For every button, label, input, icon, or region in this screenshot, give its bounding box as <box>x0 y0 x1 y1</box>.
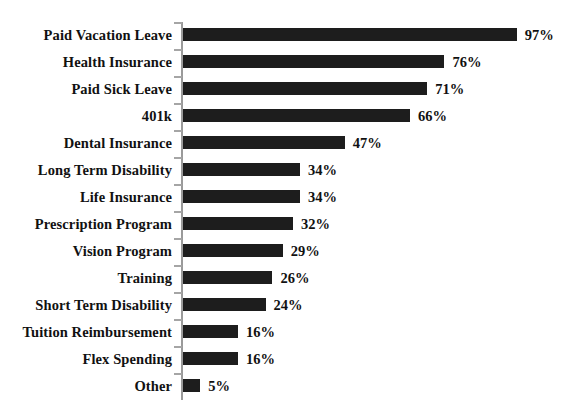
axis-tick-mark <box>174 76 182 78</box>
bar-row: 401k66% <box>0 103 572 130</box>
bar <box>183 190 300 203</box>
bar-row: Paid Sick Leave71% <box>0 76 572 103</box>
bar-category-label: Training <box>0 265 172 292</box>
bar <box>183 352 238 365</box>
bar-category-label: Health Insurance <box>0 49 172 76</box>
bar-category-label: Tuition Reimbursement <box>0 319 172 346</box>
axis-tick-mark <box>174 238 182 240</box>
axis-tick-mark <box>174 211 182 213</box>
bar-category-label: Vision Program <box>0 238 172 265</box>
bar-value-label: 97% <box>525 22 554 49</box>
bar-track: 16% <box>183 346 572 373</box>
bar <box>183 325 238 338</box>
bar-category-label: Prescription Program <box>0 211 172 238</box>
bar-value-label: 32% <box>301 211 330 238</box>
bar <box>183 28 517 41</box>
axis-tick-mark <box>174 157 182 159</box>
bar <box>183 244 283 257</box>
bar-category-label: Long Term Disability <box>0 157 172 184</box>
axis-tick-mark <box>174 292 182 294</box>
bar <box>183 217 293 230</box>
axis-tick-mark <box>174 265 182 267</box>
bar-track: 16% <box>183 319 572 346</box>
bar-value-label: 66% <box>418 103 447 130</box>
bar-row: Tuition Reimbursement16% <box>0 319 572 346</box>
bar-row: Prescription Program32% <box>0 211 572 238</box>
bar-value-label: 76% <box>452 49 481 76</box>
bar <box>183 298 266 311</box>
bar-value-label: 16% <box>246 319 275 346</box>
bar-value-label: 34% <box>308 157 337 184</box>
bar-row: Paid Vacation Leave97% <box>0 22 572 49</box>
bar-chart: Paid Vacation Leave97%Health Insurance76… <box>0 0 572 416</box>
bar-row: Dental Insurance47% <box>0 130 572 157</box>
bar-value-label: 5% <box>208 373 230 400</box>
bar-row: Training26% <box>0 265 572 292</box>
bar-track: 24% <box>183 292 572 319</box>
bar-track: 47% <box>183 130 572 157</box>
bar-track: 29% <box>183 238 572 265</box>
bar-value-label: 24% <box>274 292 303 319</box>
axis-tick-mark <box>174 373 182 375</box>
bar-row: Health Insurance76% <box>0 49 572 76</box>
axis-tick-mark <box>174 49 182 51</box>
bar-row-list: Paid Vacation Leave97%Health Insurance76… <box>0 22 572 400</box>
bar-category-label: Short Term Disability <box>0 292 172 319</box>
bar-track: 26% <box>183 265 572 292</box>
bar-row: Other5% <box>0 373 572 400</box>
bar-track: 71% <box>183 76 572 103</box>
bar-row: Vision Program29% <box>0 238 572 265</box>
bar-track: 34% <box>183 157 572 184</box>
bar-row: Life Insurance34% <box>0 184 572 211</box>
bar-value-label: 29% <box>291 238 320 265</box>
bar-track: 34% <box>183 184 572 211</box>
bar <box>183 271 272 284</box>
bar-track: 5% <box>183 373 572 400</box>
bar-category-label: Flex Spending <box>0 346 172 373</box>
axis-tick-mark <box>174 22 182 24</box>
axis-tick-mark <box>174 346 182 348</box>
bar-track: 66% <box>183 103 572 130</box>
bar-value-label: 71% <box>435 76 464 103</box>
axis-tick-mark <box>174 319 182 321</box>
bar-value-label: 47% <box>353 130 382 157</box>
bar-category-label: Other <box>0 373 172 400</box>
bar <box>183 55 444 68</box>
bar <box>183 136 345 149</box>
bar-value-label: 16% <box>246 346 275 373</box>
axis-tick-mark <box>174 130 182 132</box>
bar-track: 97% <box>183 22 572 49</box>
bar-row: Long Term Disability34% <box>0 157 572 184</box>
bar <box>183 109 410 122</box>
plot-area: Paid Vacation Leave97%Health Insurance76… <box>0 14 572 406</box>
bar-category-label: Dental Insurance <box>0 130 172 157</box>
bar <box>183 379 200 392</box>
bar-category-label: Paid Vacation Leave <box>0 22 172 49</box>
bar-category-label: Life Insurance <box>0 184 172 211</box>
bar-value-label: 34% <box>308 184 337 211</box>
bar-row: Flex Spending16% <box>0 346 572 373</box>
bar-track: 76% <box>183 49 572 76</box>
bar-category-label: 401k <box>0 103 172 130</box>
bar-category-label: Paid Sick Leave <box>0 76 172 103</box>
bar-row: Short Term Disability24% <box>0 292 572 319</box>
bar <box>183 163 300 176</box>
axis-tick-mark <box>174 103 182 105</box>
axis-tick-mark <box>174 184 182 186</box>
bar-value-label: 26% <box>280 265 309 292</box>
bar-track: 32% <box>183 211 572 238</box>
bar <box>183 82 427 95</box>
